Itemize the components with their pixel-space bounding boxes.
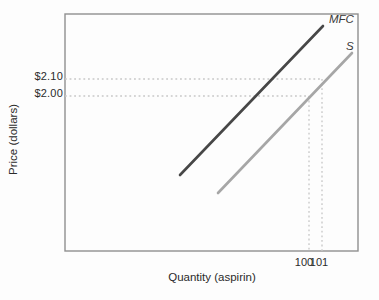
- y-tick-2-10: $2.10: [18, 70, 63, 83]
- x-tick-101: 101: [304, 256, 334, 269]
- plot-border: [65, 14, 358, 251]
- curve-label-mfc: MFC: [329, 13, 354, 26]
- curve-label-s: S: [346, 40, 354, 53]
- curve-s: [218, 53, 352, 193]
- y-axis-title: Price (dollars): [7, 60, 20, 220]
- y-tick-2-00: $2.00: [18, 87, 63, 100]
- curve-mfc: [180, 26, 323, 175]
- x-axis-title: Quantity (aspirin): [132, 271, 292, 284]
- chart-svg: [0, 0, 379, 300]
- supply-mfc-chart: $2.10 $2.00 100 101 MFC S Quantity (aspi…: [0, 0, 379, 300]
